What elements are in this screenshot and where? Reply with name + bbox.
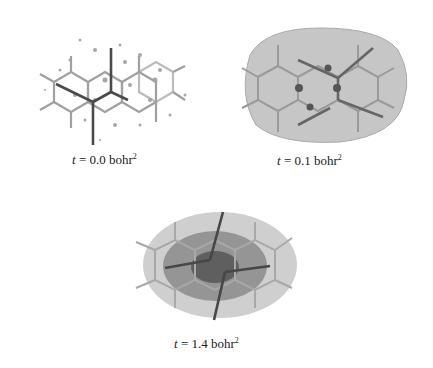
caption-exp: 2: [133, 152, 137, 161]
panel-t01: t = 0.1 bohr2: [220, 0, 433, 190]
caption-eq: = 1.4 bohr: [178, 336, 235, 351]
molecule-isosurface-t01: [220, 0, 433, 150]
caption-eq: = 0.0 bohr: [76, 152, 133, 167]
caption-t14: t = 1.4 bohr2: [174, 336, 239, 352]
caption-t0: t = 0.0 bohr2: [72, 152, 137, 168]
caption-exp: 2: [235, 336, 239, 345]
panel-t14: t = 1.4 bohr2: [110, 190, 330, 368]
caption-exp: 2: [338, 153, 342, 162]
caption-t01: t = 0.1 bohr2: [277, 153, 342, 169]
panel-t0: t = 0.0 bohr2: [0, 0, 220, 190]
molecule-isosurface-t14: [110, 190, 330, 330]
caption-eq: = 0.1 bohr: [281, 153, 338, 168]
molecule-sparse-isosurface: [0, 0, 220, 170]
